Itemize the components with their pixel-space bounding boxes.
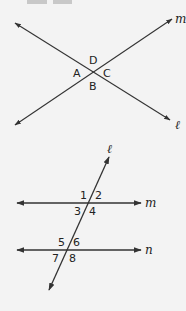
angle-label-1: 1 — [80, 189, 87, 202]
angle-label-c: C — [103, 67, 111, 80]
geometry-figures: m ℓ D A C B m n ℓ 1 2 3 4 5 6 7 8 — [0, 0, 186, 311]
line-l-label: ℓ — [175, 118, 180, 132]
line-n-parallel-label: n — [145, 243, 153, 257]
angle-label-8: 8 — [69, 252, 76, 265]
line-m — [15, 19, 172, 125]
angle-label-7: 7 — [52, 252, 59, 265]
angle-label-d: D — [89, 54, 97, 67]
transversal-l — [49, 157, 109, 290]
line-m-parallel-label: m — [145, 196, 156, 210]
angle-label-3: 3 — [74, 205, 81, 218]
angle-label-a: A — [73, 67, 81, 80]
parallel-lines-transversal-diagram: m n ℓ 1 2 3 4 5 6 7 8 — [17, 142, 156, 290]
angle-label-2: 2 — [95, 189, 102, 202]
transversal-label: ℓ — [107, 142, 112, 156]
line-m-label: m — [175, 12, 186, 26]
line-l — [15, 23, 170, 120]
angle-label-4: 4 — [89, 205, 96, 218]
angle-label-5: 5 — [58, 236, 65, 249]
intersecting-lines-diagram: m ℓ D A C B — [15, 12, 186, 132]
angle-label-6: 6 — [73, 236, 80, 249]
angle-label-b: B — [89, 80, 97, 93]
